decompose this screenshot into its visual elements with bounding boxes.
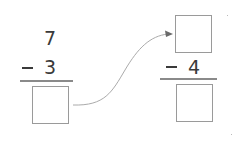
scan-speck bbox=[227, 15, 228, 16]
connector-arrow-icon bbox=[0, 0, 238, 158]
subtraction-worksheet: 7 3 4 bbox=[0, 0, 238, 158]
scan-speck bbox=[231, 134, 232, 135]
